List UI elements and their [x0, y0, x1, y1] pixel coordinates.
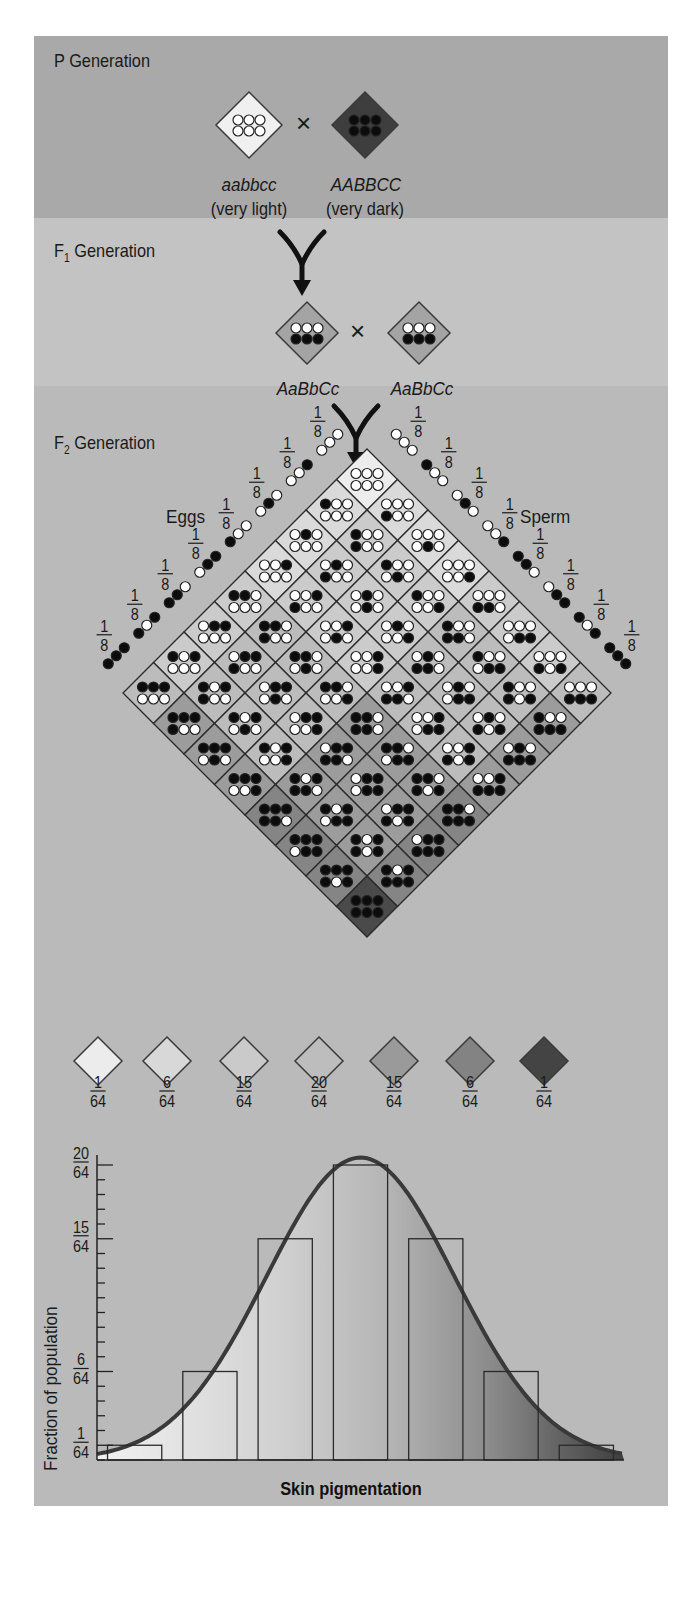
fraction-label: 2064 — [73, 1144, 89, 1181]
svg-text:15: 15 — [73, 1218, 89, 1236]
svg-text:64: 64 — [73, 1237, 89, 1255]
fraction-label: 1564 — [73, 1218, 89, 1255]
svg-text:64: 64 — [73, 1443, 89, 1461]
svg-text:1: 1 — [77, 1424, 85, 1442]
fraction-label: 664 — [73, 1350, 89, 1387]
svg-text:20: 20 — [73, 1144, 89, 1162]
svg-text:6: 6 — [77, 1350, 85, 1368]
skin-pigmentation-histogram: 16466415642064 — [34, 36, 668, 1506]
svg-text:64: 64 — [73, 1163, 89, 1181]
fraction-label: 164 — [73, 1424, 89, 1461]
polygenic-inheritance-figure: P Generation × aabbcc AABBCC (very light… — [34, 36, 668, 1506]
y-axis-label: Fraction of population — [40, 1307, 62, 1471]
svg-text:64: 64 — [73, 1369, 89, 1387]
x-axis-label: Skin pigmentation — [78, 1478, 623, 1500]
